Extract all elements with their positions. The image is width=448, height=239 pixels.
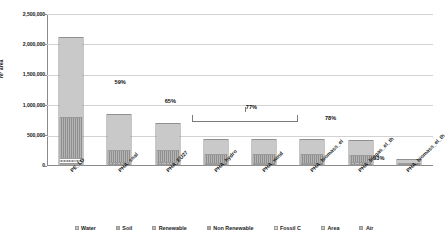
bar-slot xyxy=(385,14,433,166)
y-tick-label: 1,500,000 xyxy=(0,71,45,77)
legend-swatch-icon xyxy=(359,226,363,230)
y-tick-label: 0 xyxy=(0,162,45,168)
annotation-pct: 78% xyxy=(325,115,336,121)
legend-label: Area xyxy=(327,225,339,231)
legend-item-area[interactable]: Area xyxy=(321,225,340,231)
y-tick-label: 2,000,000 xyxy=(0,41,45,47)
legend-item-renewable[interactable]: Renewable xyxy=(152,225,187,231)
legend-swatch-icon xyxy=(152,226,156,230)
legend-item-non-renewable[interactable]: Non Renewable xyxy=(207,225,254,231)
legend-label: Non Renewable xyxy=(213,225,253,231)
bar-group xyxy=(47,14,433,166)
bar-slot xyxy=(240,14,288,166)
bar-slot xyxy=(337,14,385,166)
y-tick-label: 1,000,000 xyxy=(0,102,45,108)
bar-slot xyxy=(288,14,336,166)
annotation-bracket xyxy=(192,115,298,122)
x-axis-labels: PE_LD PHA_coal PHA_EU27 PHA_hydro PHA_wi… xyxy=(47,167,433,217)
bar-slot xyxy=(144,14,192,166)
legend-label: Soil xyxy=(122,225,132,231)
plot-area: 59% 65% 77% 78% 93% xyxy=(47,14,433,166)
bar-pe-ld[interactable] xyxy=(59,37,84,166)
legend-item-air[interactable]: Air xyxy=(359,225,373,231)
legend-item-fossil-c[interactable]: Fossil C xyxy=(274,225,301,231)
legend-swatch-icon xyxy=(207,226,211,230)
annotation-pct: 77% xyxy=(246,104,257,110)
chart-legend: Water Soil Renewable Non Renewable Fossi… xyxy=(0,222,448,234)
legend-label: Water xyxy=(81,225,96,231)
legend-swatch-icon xyxy=(75,226,79,230)
annotation-bracket-tick xyxy=(245,107,246,112)
bar-chart: m² area 2,500,000 2,000,000 1,500,000 1,… xyxy=(0,0,448,239)
annotation-pct: 59% xyxy=(115,79,126,85)
bar-slot xyxy=(192,14,240,166)
legend-swatch-icon xyxy=(116,226,120,230)
y-tick-label: 2,500,000 xyxy=(0,11,45,17)
legend-swatch-icon xyxy=(321,226,325,230)
annotation-pct: 65% xyxy=(165,98,176,104)
legend-label: Air xyxy=(366,225,374,231)
legend-item-soil[interactable]: Soil xyxy=(116,225,132,231)
y-tick-label: 500,000 xyxy=(0,132,45,138)
legend-label: Renewable xyxy=(159,225,187,231)
legend-item-water[interactable]: Water xyxy=(75,225,96,231)
bar-slot xyxy=(95,14,143,166)
bar-slot xyxy=(47,14,95,166)
legend-swatch-icon xyxy=(274,226,278,230)
legend-label: Fossil C xyxy=(280,225,301,231)
